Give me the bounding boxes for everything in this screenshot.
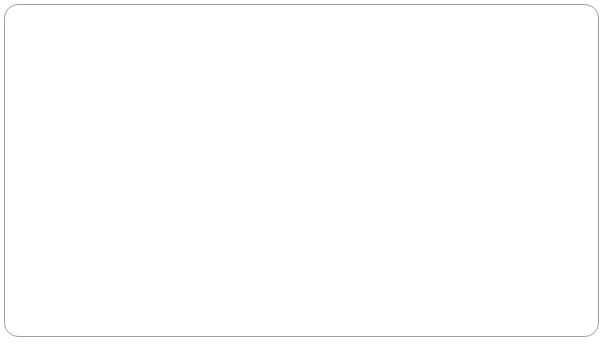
ionization-energy-chart-figure: 05001000150020002500 0102030405060708090… — [0, 0, 605, 350]
figure-border — [4, 4, 599, 337]
